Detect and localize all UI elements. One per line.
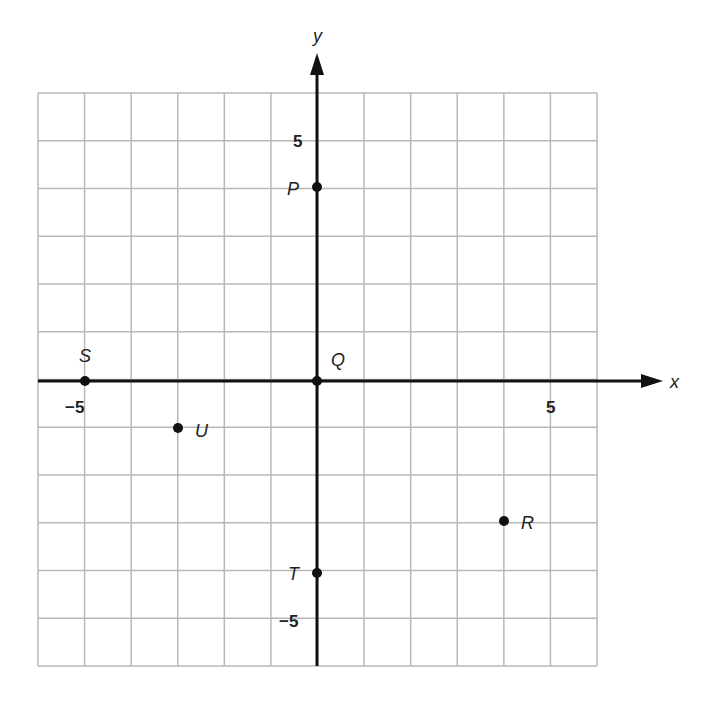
point-P [312, 182, 322, 192]
x-tick-5: 5 [546, 398, 555, 417]
y-tick-5: 5 [293, 132, 302, 151]
point-R [499, 516, 509, 526]
point-Q [312, 376, 322, 386]
point-S-label: S [79, 346, 91, 366]
point-U-label: U [195, 421, 209, 441]
point-R-label: R [521, 513, 534, 533]
y-axis-arrow-icon [310, 53, 324, 75]
point-P-label: P [287, 179, 299, 199]
x-axis-arrow-icon [641, 374, 663, 388]
x-tick-neg5: −5 [65, 398, 84, 417]
point-T-label: T [288, 564, 301, 584]
point-S [80, 376, 90, 386]
point-Q-label: Q [331, 350, 345, 370]
point-T [312, 568, 322, 578]
y-tick-neg5: −5 [279, 612, 298, 631]
point-U [173, 423, 183, 433]
coordinate-plane: x y −5 5 5 −5 P Q S U R T [0, 0, 701, 702]
y-axis-label: y [311, 26, 323, 46]
x-axis-label: x [669, 372, 680, 392]
